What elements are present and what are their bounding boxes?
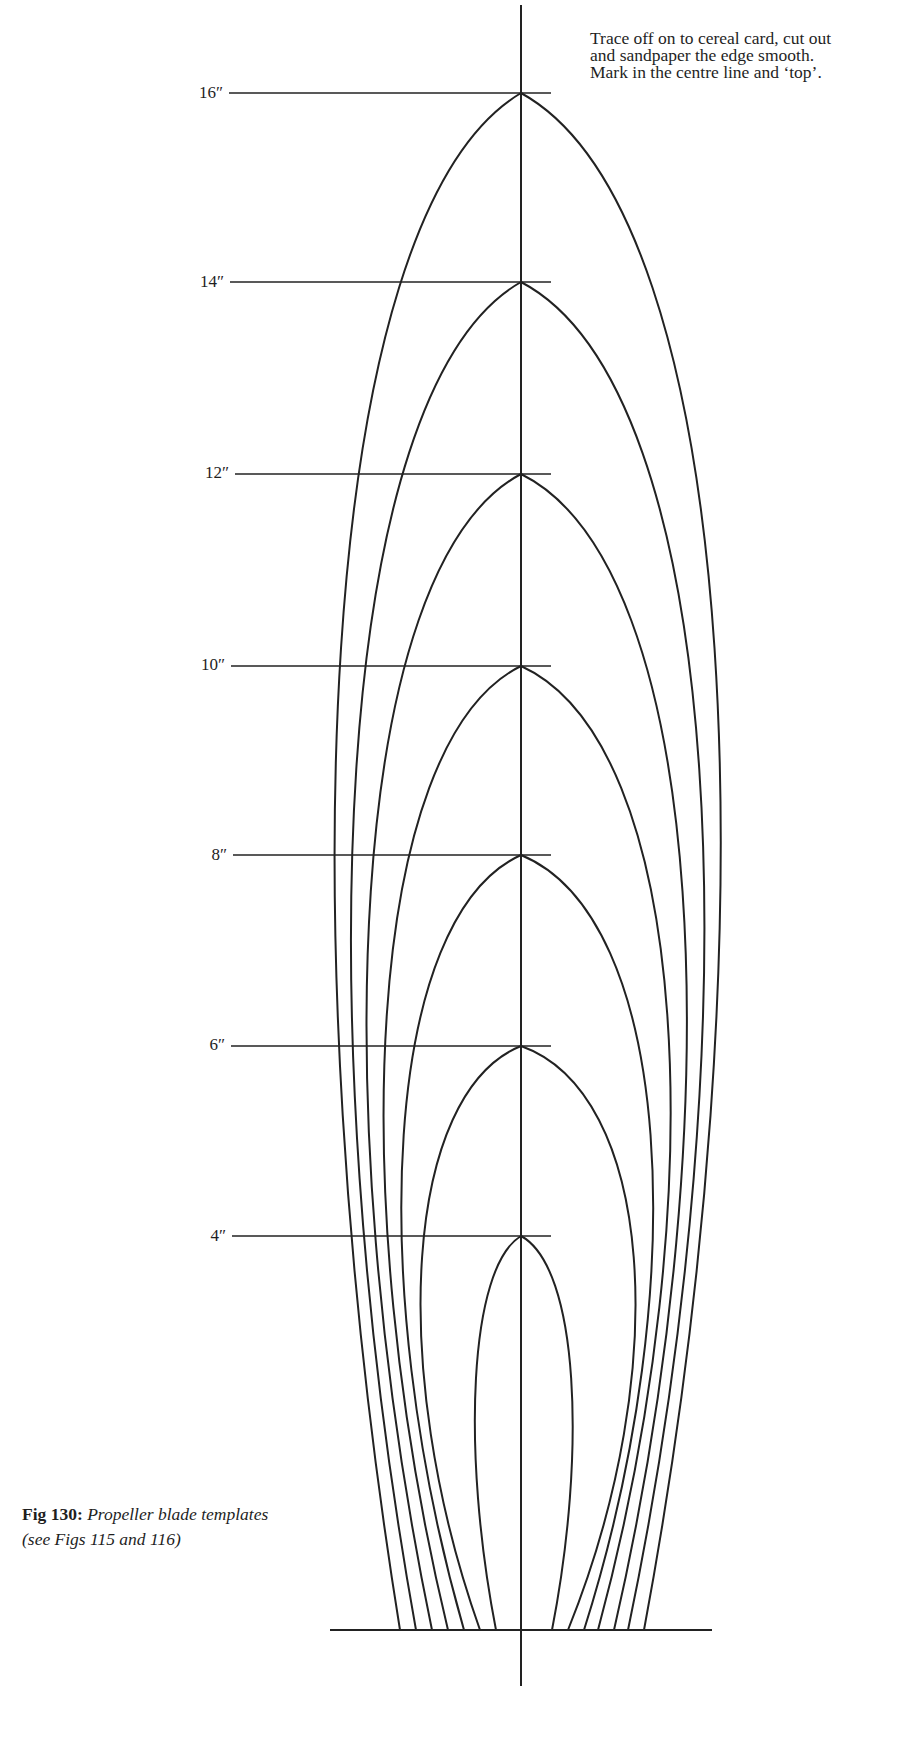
figure-number: Fig 130:: [22, 1504, 83, 1524]
blade-template-curve-14in: [351, 282, 704, 1630]
figure-caption: Fig 130: Propeller blade templates (see …: [22, 1502, 342, 1552]
size-label-10in: 10″: [185, 656, 225, 673]
blade-template-curve-10in: [384, 666, 671, 1630]
blade-template-curve-8in: [401, 855, 653, 1630]
blade-template-curve-12in: [367, 474, 687, 1630]
figure-subtitle: (see Figs 115 and 116): [22, 1527, 342, 1552]
size-label-14in: 14″: [184, 273, 224, 290]
size-label-12in: 12″: [189, 464, 229, 481]
blade-template-curves: [335, 93, 721, 1630]
level-lines: [229, 93, 551, 1236]
propeller-blade-templates-drawing: [0, 0, 903, 1757]
blade-template-curve-6in: [421, 1046, 636, 1630]
instruction-note: Trace off on to cereal card, cut out and…: [590, 30, 900, 81]
size-label-6in: 6″: [185, 1036, 225, 1053]
size-label-8in: 8″: [187, 846, 227, 863]
size-label-16in: 16″: [183, 84, 223, 101]
figure-title: Propeller blade templates: [87, 1504, 268, 1524]
note-line-3: Mark in the centre line and ‘top’.: [590, 64, 900, 81]
diagram-page: 16″14″12″10″8″6″4″ Trace off on to cerea…: [0, 0, 903, 1757]
blade-template-curve-4in: [475, 1236, 573, 1630]
size-label-4in: 4″: [186, 1227, 226, 1244]
